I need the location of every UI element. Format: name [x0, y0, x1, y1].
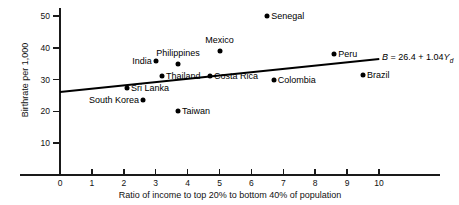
x-tick-5 — [219, 169, 221, 174]
data-point-label: Philippines — [156, 48, 200, 58]
y-tick-label-40: 40 — [28, 43, 50, 52]
data-point — [176, 109, 181, 114]
x-tick-label-1: 1 — [90, 179, 95, 188]
y-tick-label-10: 10 — [28, 139, 50, 148]
x-tick-4 — [187, 169, 189, 174]
x-tick-8 — [314, 169, 316, 174]
x-axis-title: Ratio of income to top 20% to bottom 40%… — [60, 190, 400, 200]
equation-plus: + — [416, 52, 426, 62]
x-tick-label-9: 9 — [345, 179, 350, 188]
data-point — [153, 58, 158, 63]
y-tick-label-50: 50 — [28, 12, 50, 21]
data-point — [361, 72, 366, 77]
x-tick-label-10: 10 — [374, 179, 383, 188]
y-tick-50 — [53, 15, 59, 17]
x-tick-label-8: 8 — [313, 179, 318, 188]
data-point-label: Taiwan — [182, 106, 210, 116]
x-tick-label-2: 2 — [121, 179, 126, 188]
data-point — [140, 98, 145, 103]
x-tick-10 — [378, 169, 380, 174]
equation-equals: = — [388, 52, 398, 62]
x-axis-line — [20, 174, 440, 176]
y-tick-30 — [53, 79, 59, 81]
y-tick-20 — [53, 111, 59, 113]
y-tick-label-20: 20 — [28, 107, 50, 116]
equation-subscript: d — [450, 57, 454, 64]
x-tick-label-6: 6 — [249, 179, 254, 188]
data-point-label: Mexico — [205, 35, 234, 45]
data-point — [160, 74, 165, 79]
x-tick-1 — [91, 169, 93, 174]
data-point — [332, 52, 337, 57]
data-point — [176, 61, 181, 66]
y-axis-title: Birthrate per 1,000 — [20, 25, 30, 135]
data-point — [217, 48, 222, 53]
x-tick-label-5: 5 — [217, 179, 222, 188]
equation-intercept: 26.4 — [398, 52, 416, 62]
equation-slope: 1.04 — [426, 52, 444, 62]
data-point-label: Colombia — [278, 75, 316, 85]
scatter-chart: 012345678910 1020304050 Sri LankaSouth K… — [0, 0, 459, 205]
data-point — [271, 77, 276, 82]
data-point-label: India — [132, 56, 152, 66]
y-tick-40 — [53, 47, 59, 49]
data-point — [265, 14, 270, 19]
x-tick-label-0: 0 — [58, 179, 63, 188]
data-point-label: Peru — [338, 49, 357, 59]
data-point-label: Senegal — [271, 11, 304, 21]
data-point-label: South Korea — [89, 95, 139, 105]
x-tick-0 — [59, 169, 61, 174]
y-tick-10 — [53, 142, 59, 144]
x-tick-label-7: 7 — [281, 179, 286, 188]
x-tick-label-4: 4 — [185, 179, 190, 188]
x-tick-7 — [283, 169, 285, 174]
x-tick-label-3: 3 — [153, 179, 158, 188]
y-tick-label-30: 30 — [28, 75, 50, 84]
x-tick-2 — [123, 169, 125, 174]
x-tick-9 — [346, 169, 348, 174]
x-tick-6 — [251, 169, 253, 174]
data-point-label: Brazil — [367, 70, 390, 80]
x-tick-3 — [155, 169, 157, 174]
regression-line — [60, 58, 379, 93]
regression-equation: B = 26.4 + 1.04Yd — [382, 52, 453, 64]
